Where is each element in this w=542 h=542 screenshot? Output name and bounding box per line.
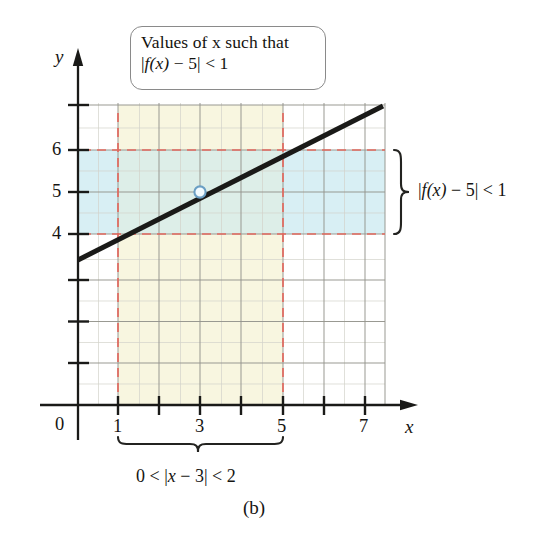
- y-axis-label: y: [55, 46, 63, 68]
- callout-rest: − 5| < 1: [169, 53, 228, 73]
- figure-caption: (b): [243, 497, 265, 519]
- x-tick-label-5: 5: [277, 416, 286, 437]
- x-axis-arrow: [400, 400, 418, 410]
- bottom-brace-prefix: 0 < |: [136, 466, 168, 486]
- right-brace-label: |f(x) − 5| < 1: [418, 180, 507, 201]
- x-tick-label-1: 1: [113, 416, 122, 437]
- open-point-marker: [194, 186, 205, 197]
- right-brace-arg: (x): [427, 180, 447, 200]
- bottom-brace-label: 0 < |x − 3| < 2: [136, 466, 236, 487]
- x-tick-label-3: 3: [195, 416, 204, 437]
- origin-label: 0: [55, 414, 64, 435]
- x-axis-label: x: [405, 416, 413, 438]
- right-brace-rest: − 5| < 1: [447, 180, 507, 200]
- bottom-brace-rest: − 3| < 2: [176, 466, 236, 486]
- callout-line-2: |f(x) − 5| < 1: [141, 53, 325, 74]
- right-brace: [394, 150, 409, 234]
- y-tick-label-4: 4: [52, 223, 61, 244]
- bottom-brace-x: x: [168, 466, 176, 486]
- x-tick-label-7: 7: [359, 416, 368, 437]
- y-axis-arrow: [73, 48, 83, 66]
- figure-container: Values of x such that |f(x) − 5| < 1 y x…: [0, 0, 542, 542]
- y-tick-label-6: 6: [52, 139, 61, 160]
- callout-box: Values of x such that |f(x) − 5| < 1: [130, 26, 326, 90]
- callout-line-1: Values of x such that: [141, 32, 325, 53]
- y-tick-label-5: 5: [52, 181, 61, 202]
- bottom-brace: [118, 437, 283, 452]
- callout-arg: (x): [150, 53, 170, 73]
